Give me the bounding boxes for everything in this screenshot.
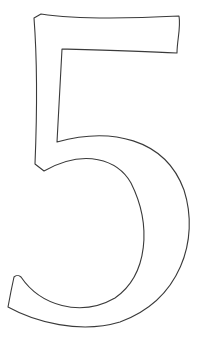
numeral-five-path — [8, 14, 189, 327]
numeral-five-outline — [0, 0, 204, 346]
canvas: 5 — [0, 0, 204, 346]
